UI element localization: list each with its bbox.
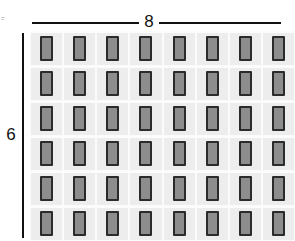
module-rectangle[interactable] <box>73 71 86 96</box>
array-cell[interactable] <box>63 31 96 66</box>
module-rectangle[interactable] <box>206 36 219 61</box>
module-rectangle[interactable] <box>239 106 252 131</box>
module-rectangle[interactable] <box>139 106 152 131</box>
module-rectangle[interactable] <box>106 176 119 201</box>
module-rectangle[interactable] <box>139 141 152 166</box>
array-cell[interactable] <box>30 101 63 136</box>
array-cell[interactable] <box>196 66 229 101</box>
array-cell[interactable] <box>262 206 295 241</box>
array-cell[interactable] <box>30 66 63 101</box>
array-cell[interactable] <box>229 101 262 136</box>
array-cell[interactable] <box>30 136 63 171</box>
array-cell[interactable] <box>129 66 162 101</box>
module-rectangle[interactable] <box>173 211 186 236</box>
array-cell[interactable] <box>63 206 96 241</box>
array-cell[interactable] <box>163 136 196 171</box>
array-cell[interactable] <box>229 136 262 171</box>
module-rectangle[interactable] <box>40 141 53 166</box>
registration-tick-top-left <box>1 17 5 18</box>
width-dimension-line-right <box>157 22 281 24</box>
module-rectangle[interactable] <box>272 176 285 201</box>
array-cell[interactable] <box>96 171 129 206</box>
array-cell[interactable] <box>63 136 96 171</box>
module-rectangle[interactable] <box>272 36 285 61</box>
array-cell[interactable] <box>163 31 196 66</box>
module-rectangle[interactable] <box>173 71 186 96</box>
module-rectangle[interactable] <box>272 211 285 236</box>
array-cell[interactable] <box>96 136 129 171</box>
module-rectangle[interactable] <box>173 176 186 201</box>
array-cell[interactable] <box>196 171 229 206</box>
array-cell[interactable] <box>129 136 162 171</box>
module-rectangle[interactable] <box>106 36 119 61</box>
array-cell[interactable] <box>96 31 129 66</box>
module-rectangle[interactable] <box>173 141 186 166</box>
module-rectangle[interactable] <box>139 71 152 96</box>
module-rectangle[interactable] <box>73 141 86 166</box>
module-rectangle[interactable] <box>73 36 86 61</box>
array-cell[interactable] <box>96 66 129 101</box>
module-rectangle[interactable] <box>106 141 119 166</box>
module-rectangle[interactable] <box>73 176 86 201</box>
module-rectangle[interactable] <box>40 211 53 236</box>
module-rectangle[interactable] <box>139 36 152 61</box>
module-rectangle[interactable] <box>173 36 186 61</box>
module-rectangle[interactable] <box>206 71 219 96</box>
module-rectangle[interactable] <box>173 106 186 131</box>
array-cell[interactable] <box>229 66 262 101</box>
module-rectangle[interactable] <box>139 176 152 201</box>
module-rectangle[interactable] <box>272 106 285 131</box>
module-rectangle[interactable] <box>239 176 252 201</box>
array-cell[interactable] <box>262 101 295 136</box>
module-rectangle[interactable] <box>239 211 252 236</box>
module-rectangle[interactable] <box>206 141 219 166</box>
array-cell[interactable] <box>30 31 63 66</box>
array-cell[interactable] <box>163 171 196 206</box>
array-cell[interactable] <box>262 136 295 171</box>
module-rectangle[interactable] <box>73 106 86 131</box>
module-rectangle[interactable] <box>272 71 285 96</box>
module-rectangle[interactable] <box>40 106 53 131</box>
array-cell[interactable] <box>229 31 262 66</box>
array-cell[interactable] <box>163 101 196 136</box>
module-rectangle[interactable] <box>106 211 119 236</box>
array-cell[interactable] <box>262 171 295 206</box>
array-cell[interactable] <box>129 101 162 136</box>
array-cell[interactable] <box>129 206 162 241</box>
array-cell[interactable] <box>129 31 162 66</box>
array-cell[interactable] <box>229 171 262 206</box>
module-rectangle[interactable] <box>239 141 252 166</box>
array-cell[interactable] <box>196 101 229 136</box>
array-cell[interactable] <box>163 206 196 241</box>
width-dimension-line-left <box>32 22 139 24</box>
array-cell[interactable] <box>196 136 229 171</box>
array-cell[interactable] <box>262 31 295 66</box>
module-rectangle[interactable] <box>272 141 285 166</box>
array-cell[interactable] <box>229 206 262 241</box>
module-rectangle[interactable] <box>40 36 53 61</box>
module-rectangle[interactable] <box>206 176 219 201</box>
array-cell[interactable] <box>163 66 196 101</box>
module-rectangle[interactable] <box>106 71 119 96</box>
array-cell[interactable] <box>262 66 295 101</box>
module-rectangle[interactable] <box>73 211 86 236</box>
array-cell[interactable] <box>196 31 229 66</box>
array-cell[interactable] <box>96 101 129 136</box>
array-cell[interactable] <box>30 206 63 241</box>
array-cell[interactable] <box>96 206 129 241</box>
array-cell[interactable] <box>63 171 96 206</box>
module-rectangle[interactable] <box>106 106 119 131</box>
array-cell[interactable] <box>129 171 162 206</box>
module-rectangle[interactable] <box>40 176 53 201</box>
registration-tick-left <box>1 19 4 20</box>
module-rectangle[interactable] <box>40 71 53 96</box>
module-rectangle[interactable] <box>239 71 252 96</box>
module-rectangle[interactable] <box>206 211 219 236</box>
array-cell[interactable] <box>30 171 63 206</box>
module-rectangle[interactable] <box>239 36 252 61</box>
array-cell[interactable] <box>196 206 229 241</box>
module-rectangle[interactable] <box>206 106 219 131</box>
array-cell[interactable] <box>63 101 96 136</box>
array-cell[interactable] <box>63 66 96 101</box>
module-rectangle[interactable] <box>139 211 152 236</box>
